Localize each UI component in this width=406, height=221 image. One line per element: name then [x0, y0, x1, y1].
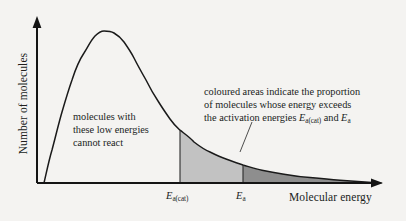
axis-tick-label-ea-cat: Ea(cat) [166, 190, 188, 203]
shaded-region-ea [243, 165, 381, 183]
maxwell-boltzmann-figure: Number of molecules Molecular energy mol… [0, 0, 406, 221]
tick-subscript-ea: a [242, 195, 245, 203]
annotation-subscript-ea-cat: a(cat) [305, 117, 321, 125]
annotation-coloured-areas-line-1: coloured areas indicate the proportion [204, 85, 360, 98]
annotation-line-3-conjunction: and [321, 112, 341, 123]
y-axis-label: Number of molecules [16, 28, 31, 180]
x-axis-label: Molecular energy [289, 190, 372, 205]
tick-subscript-ea-cat: a(cat) [172, 195, 188, 203]
x-axis-arrowhead [371, 179, 383, 188]
annotation-coloured-areas: coloured areas indicate the proportion o… [204, 85, 360, 128]
y-axis-arrowhead [33, 16, 42, 28]
annotation-coloured-areas-line-2: of molecules whose energy exceeds [204, 98, 360, 111]
annotation-low-energy: molecules with these low energies cannot… [73, 110, 149, 150]
annotation-low-energy-line-1: molecules with [73, 110, 149, 123]
annotation-low-energy-line-3: cannot react [73, 136, 149, 149]
annotation-coloured-areas-line-3: the activation energies Ea(cat) and Ea [204, 111, 360, 128]
axis-tick-label-ea: Ea [236, 190, 246, 203]
annotation-low-energy-line-2: these low energies [73, 123, 149, 136]
annotation-subscript-ea: a [347, 117, 350, 125]
annotation-line-3-prefix: the activation energies [204, 112, 299, 123]
